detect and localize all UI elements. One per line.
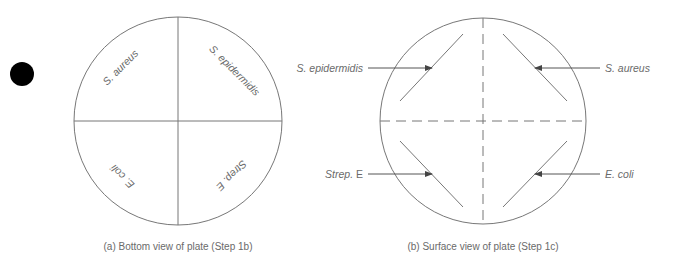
quadrant-label-lower-right: Strep. E	[213, 158, 249, 194]
streak-label-lower-left: Strep. E	[325, 168, 363, 180]
plate-diagram: S. aureus S. epidermidis E. coli Strep. …	[0, 0, 673, 263]
streak-label-upper-right: S. aureus	[605, 62, 651, 74]
quadrant-label-upper-left: S. aureus	[100, 47, 141, 88]
streak-label-upper-left: S. epidermidis	[296, 62, 363, 74]
quadrant-label-lower-left: E. coli	[107, 162, 136, 191]
streak-label-lower-right: E. coli	[605, 168, 634, 180]
panel-a-bottom-view: S. aureus S. epidermidis E. coli Strep. …	[74, 17, 282, 252]
panel-a-caption: (a) Bottom view of plate (Step 1b)	[104, 241, 253, 252]
panel-b-surface-view: S. epidermidis S. aureus Strep. E E. col…	[296, 18, 650, 252]
panel-b-caption: (b) Surface view of plate (Step 1c)	[407, 241, 558, 252]
orientation-marker-dot	[10, 62, 34, 86]
